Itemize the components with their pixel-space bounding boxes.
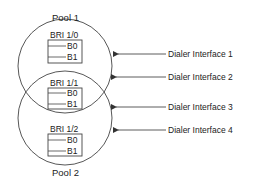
dialer-interface-1-label: Dialer Interface 1 bbox=[168, 50, 233, 59]
pool-1-label: Pool 1 bbox=[52, 13, 79, 23]
dialer-interface-4-label: Dialer Interface 4 bbox=[168, 126, 233, 135]
bri-1-0-label: BRI 1/0 bbox=[50, 31, 78, 40]
bri-1-2-label: BRI 1/2 bbox=[50, 125, 78, 134]
bri-1-1-label: BRI 1/1 bbox=[50, 79, 78, 88]
bri-1-2-b1: B1 bbox=[67, 147, 77, 156]
bri-1-1-b0: B0 bbox=[67, 89, 77, 98]
bri-1-0-b0: B0 bbox=[67, 42, 77, 51]
dialer-interface-2-label: Dialer Interface 2 bbox=[168, 73, 233, 82]
bri-1-0-b1: B1 bbox=[67, 53, 77, 62]
pool-2-label: Pool 2 bbox=[52, 168, 79, 178]
bri-1-1-b1: B1 bbox=[67, 100, 77, 109]
bri-1-2-b0: B0 bbox=[67, 136, 77, 145]
diagram-canvas bbox=[0, 0, 253, 187]
dialer-interface-3-label: Dialer Interface 3 bbox=[168, 103, 233, 112]
